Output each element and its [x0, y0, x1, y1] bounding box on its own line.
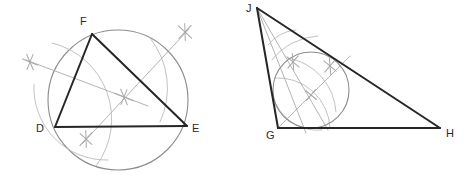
triangle-side-jh	[257, 8, 440, 128]
construction-arc-from-f-lower	[34, 84, 108, 160]
vertex-label-e: E	[192, 122, 199, 134]
cross-mark-df-outer	[20, 52, 41, 73]
vertex-label-d: D	[36, 122, 44, 134]
construction-arc-j-wide	[272, 36, 318, 60]
triangle-side-de	[55, 126, 187, 127]
cross-mark-j-bisector-right	[319, 55, 342, 78]
left-figure-group: D E F	[20, 15, 200, 170]
vertex-label-h: H	[446, 127, 454, 139]
construction-arc-from-d-right	[150, 38, 168, 122]
vertex-label-j: J	[246, 2, 252, 14]
vertex-label-g: G	[266, 129, 275, 141]
geometry-diagram-svg: D E F	[0, 0, 470, 188]
triangle-side-df	[55, 34, 92, 127]
geometry-figure-canvas: D E F	[0, 0, 470, 188]
vertex-label-f: F	[80, 15, 87, 27]
triangle-side-fe	[92, 34, 187, 126]
construction-arc-g-cross	[288, 58, 336, 112]
right-figure-group: J G H	[246, 2, 454, 141]
cross-mark-de-upper	[172, 19, 197, 44]
